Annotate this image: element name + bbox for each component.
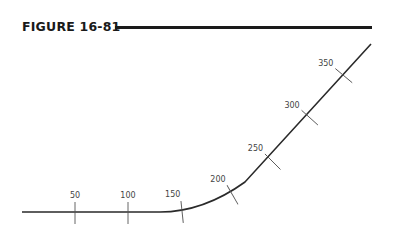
station-label: 250 [248,144,263,153]
station-tick [265,154,281,170]
station-label: 150 [165,190,180,199]
station-label: 350 [318,59,333,68]
station-label: 200 [210,175,225,184]
station-label: 100 [120,191,135,200]
station-marker [265,154,281,170]
track-line [22,44,371,212]
station-label: 50 [70,191,80,200]
station-ticks: 50100150200250300350 [70,59,352,224]
curve-diagram: 50100150200250300350 [0,0,397,247]
station-marker [181,201,183,223]
station-label: 300 [284,101,299,110]
station-tick [181,201,183,223]
